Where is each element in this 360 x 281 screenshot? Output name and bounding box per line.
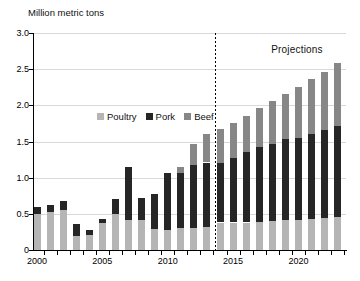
bar-segment-pork <box>125 167 132 220</box>
projections-annotation: Projections <box>257 44 337 55</box>
x-axis-tick <box>70 251 71 255</box>
bar-segment-beef <box>217 129 224 164</box>
bar-segment-poultry <box>269 221 276 250</box>
legend-label-poultry: Poultry <box>107 111 137 122</box>
legend-item-poultry: Poultry <box>97 111 137 122</box>
y-tick-label: 2.5 <box>0 64 29 74</box>
bar-segment-beef <box>269 101 276 144</box>
x-tick-label: 2000 <box>22 256 52 266</box>
bar-segment-poultry <box>164 230 171 250</box>
pork-swatch-icon <box>146 113 153 120</box>
x-axis-tick <box>253 251 254 255</box>
bar-segment-poultry <box>256 222 263 250</box>
bar-segment-pork <box>34 207 41 214</box>
bar-segment-beef <box>177 167 184 173</box>
bar-segment-poultry <box>308 219 315 250</box>
bar-segment-pork <box>269 144 276 221</box>
bar-segment-pork <box>190 165 197 227</box>
bar-segment-poultry <box>190 228 197 250</box>
poultry-swatch-icon <box>97 113 104 120</box>
y-tick-label: 1.5 <box>0 137 29 147</box>
bar-segment-pork <box>99 219 106 223</box>
y-axis-tick <box>29 33 33 34</box>
bar-segment-poultry <box>99 223 106 250</box>
bar-segment-pork <box>73 224 80 236</box>
bar-segment-pork <box>203 163 210 227</box>
x-axis-tick <box>305 251 306 255</box>
bar-segment-pork <box>256 147 263 222</box>
legend: Poultry Pork Beef <box>97 111 214 122</box>
bar-segment-poultry <box>125 220 132 250</box>
legend-item-beef: Beef <box>184 111 214 122</box>
x-axis-tick <box>187 251 188 255</box>
bar-segment-beef <box>334 63 341 125</box>
y-axis-tick <box>29 69 33 70</box>
x-axis-tick <box>96 251 97 255</box>
bar-segment-poultry <box>112 214 119 250</box>
bar-segment-poultry <box>230 223 237 251</box>
projection-divider-line <box>215 33 216 250</box>
y-tick-label: 3.0 <box>0 28 29 38</box>
x-axis-tick <box>279 251 280 255</box>
bar-segment-pork <box>230 158 237 222</box>
bar-segment-beef <box>282 94 289 140</box>
y-axis-tick <box>29 250 33 251</box>
bar-segment-beef <box>243 116 250 153</box>
bar-segment-poultry <box>295 220 302 250</box>
bar-segment-poultry <box>34 214 41 250</box>
x-tick-label: 2005 <box>87 256 117 266</box>
x-axis-tick <box>240 251 241 255</box>
x-axis-tick <box>213 251 214 255</box>
bar-segment-pork <box>243 152 250 222</box>
bar-segment-pork <box>295 138 302 220</box>
x-axis-line <box>33 250 347 251</box>
bar-segment-beef <box>230 123 237 158</box>
y-axis-line <box>33 33 34 250</box>
bar-segment-beef <box>256 108 263 147</box>
x-axis-tick <box>161 251 162 255</box>
x-axis-tick <box>135 251 136 255</box>
x-axis-tick <box>174 251 175 255</box>
legend-item-pork: Pork <box>146 111 176 122</box>
y-axis-tick <box>29 142 33 143</box>
x-axis-tick <box>148 251 149 255</box>
y-axis-tick <box>29 178 33 179</box>
bar-segment-pork <box>334 126 341 217</box>
x-tick-label: 2015 <box>218 256 248 266</box>
y-tick-label: 0 <box>0 245 29 255</box>
y-axis-title: Million metric tons <box>28 7 104 18</box>
x-axis-tick <box>344 251 345 255</box>
x-axis-tick <box>292 251 293 255</box>
bar-segment-pork <box>138 198 145 220</box>
bar-segment-poultry <box>177 228 184 250</box>
y-tick-label: 2.0 <box>0 100 29 110</box>
bar-segment-beef <box>190 144 197 165</box>
legend-label-pork: Pork <box>156 111 176 122</box>
y-axis-tick <box>29 105 33 106</box>
gridline <box>33 69 346 70</box>
x-axis-tick <box>109 251 110 255</box>
bar-segment-poultry <box>334 217 341 250</box>
bar-segment-pork <box>217 163 224 222</box>
bar-segment-poultry <box>243 223 250 251</box>
bar-segment-pork <box>164 173 171 229</box>
bar-segment-beef <box>295 87 302 138</box>
x-axis-tick <box>227 251 228 255</box>
bar-segment-pork <box>321 130 328 218</box>
y-tick-label: 1.0 <box>0 173 29 183</box>
gridline <box>33 33 346 34</box>
y-axis-tick <box>29 214 33 215</box>
beef-swatch-icon <box>184 113 191 120</box>
x-axis-tick <box>44 251 45 255</box>
bar-segment-poultry <box>151 229 158 250</box>
bar-segment-poultry <box>138 220 145 250</box>
x-axis-tick <box>57 251 58 255</box>
bar-segment-poultry <box>47 212 54 250</box>
chart: Million metric tons Projections Poultry … <box>0 0 360 281</box>
bar-segment-poultry <box>282 220 289 250</box>
x-axis-tick <box>122 251 123 255</box>
x-tick-label: 2010 <box>153 256 183 266</box>
x-axis-tick <box>83 251 84 255</box>
bar-segment-poultry <box>73 236 80 250</box>
bar-segment-poultry <box>217 223 224 251</box>
